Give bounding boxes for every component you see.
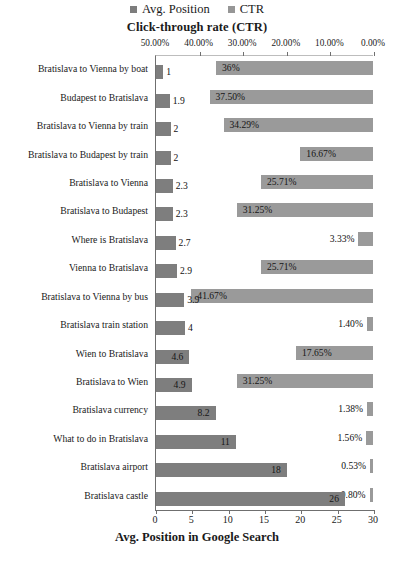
top-tick-mark [287, 52, 288, 56]
category-label: Bratislava currency [0, 405, 152, 415]
bottom-tick-label: 15 [259, 514, 269, 525]
top-tick-mark [374, 52, 375, 56]
bar-value-label-avg-position: 1 [166, 67, 171, 77]
bar-avg-position [156, 65, 163, 79]
legend-item-ctr: CTR [228, 2, 264, 17]
bar-row-avg-position: 4.9 [156, 378, 373, 392]
bar-row-avg-position: 2.9 [156, 264, 373, 278]
category-label: Bratislava to Vienna by boat [0, 64, 152, 74]
bar-avg-position [156, 151, 171, 165]
legend-label-ctr: CTR [240, 2, 264, 17]
bar-avg-position [156, 492, 345, 506]
category-label: Budapest to Bratislava [0, 93, 152, 103]
square-marker-icon [130, 6, 137, 13]
bar-avg-position [156, 236, 176, 250]
bar-row-avg-position: 2 [156, 151, 373, 165]
category-label: Bratislava to Budapest by train [0, 150, 152, 160]
bar-avg-position [156, 321, 185, 335]
category-axis-labels: Bratislava to Vienna by boatBudapest to … [0, 55, 152, 510]
bar-value-label-avg-position: 4 [188, 323, 193, 333]
plot-area: 36%137.50%1.934.29%216.67%225.71%2.331.2… [155, 55, 373, 510]
category-label: What to do in Bratislava [0, 434, 152, 444]
bar-value-label-avg-position: 18 [271, 466, 281, 476]
top-tick-mark [330, 52, 331, 56]
bar-avg-position [156, 94, 170, 108]
bottom-tick-label: 20 [295, 514, 305, 525]
bottom-axis-title: Avg. Position in Google Search [0, 530, 394, 545]
bar-row-avg-position: 2.3 [156, 179, 373, 193]
top-tick-label: 10.00% [315, 38, 344, 48]
bar-row-avg-position: 18 [156, 463, 373, 477]
bar-row-avg-position: 4.6 [156, 350, 373, 364]
top-tick-mark [243, 52, 244, 56]
legend-label-avg-position: Avg. Position [142, 2, 210, 17]
category-label: Bratislava to Vienna by train [0, 121, 152, 131]
bar-row-avg-position: 11 [156, 435, 373, 449]
category-label: Bratislava castle [0, 491, 152, 501]
bottom-tick-label: 25 [332, 514, 342, 525]
bar-avg-position [156, 179, 173, 193]
category-label: Where is Bratislava [0, 235, 152, 245]
bar-value-label-avg-position: 8.2 [198, 409, 210, 419]
category-label: Vienna to Bratislava [0, 263, 152, 273]
bar-value-label-avg-position: 2.3 [176, 181, 188, 191]
legend-item-avg-position: Avg. Position [130, 2, 210, 17]
bar-value-label-avg-position: 2.3 [176, 210, 188, 220]
page-edge-artifact [6, 556, 176, 562]
bar-value-label-avg-position: 2.9 [180, 266, 192, 276]
top-axis-tick-labels: 50.00%40.00%30.00%20.00%10.00%0.00% [155, 38, 373, 51]
top-tick-label: 50.00% [141, 38, 170, 48]
top-tick-mark [200, 52, 201, 56]
bar-row-avg-position: 4 [156, 321, 373, 335]
bar-row-avg-position: 2 [156, 122, 373, 136]
bar-value-label-avg-position: 1.9 [173, 96, 185, 106]
bar-row-avg-position: 1.9 [156, 94, 373, 108]
top-tick-label: 20.00% [271, 38, 300, 48]
bar-row-avg-position: 2.7 [156, 236, 373, 250]
bottom-tick-label: 5 [189, 514, 194, 525]
bottom-tick-label: 30 [368, 514, 378, 525]
chart-legend: Avg. Position CTR [0, 2, 394, 17]
bottom-axis-tick-labels: 051015202530 [155, 514, 373, 527]
bar-row-avg-position: 2.3 [156, 207, 373, 221]
bar-value-label-avg-position: 2.7 [179, 238, 191, 248]
bar-value-label-avg-position: 26 [329, 494, 339, 504]
bar-value-label-avg-position: 2 [174, 124, 179, 134]
bar-value-label-avg-position: 2 [174, 153, 179, 163]
bottom-tick-label: 10 [223, 514, 233, 525]
category-label: Bratislava train station [0, 320, 152, 330]
bar-row-avg-position: 26 [156, 492, 373, 506]
category-label: Bratislava airport [0, 462, 152, 472]
bar-value-label-avg-position: 4.6 [171, 352, 183, 362]
bottom-axis-line [155, 510, 374, 511]
bar-row-avg-position: 1 [156, 65, 373, 79]
bar-row-avg-position: 3.9 [156, 293, 373, 307]
category-label: Wien to Bratislava [0, 349, 152, 359]
category-label: Bratislava to Wien [0, 377, 152, 387]
top-tick-label: 40.00% [184, 38, 213, 48]
category-label: Bratislava to Budapest [0, 206, 152, 216]
top-tick-label: 30.00% [228, 38, 257, 48]
bar-value-label-avg-position: 4.9 [174, 380, 186, 390]
category-label: Bratislava to Vienna by bus [0, 292, 152, 302]
bottom-tick-label: 0 [153, 514, 158, 525]
bar-row-avg-position: 8.2 [156, 406, 373, 420]
bar-avg-position [156, 264, 177, 278]
bar-avg-position [156, 122, 171, 136]
bar-avg-position [156, 207, 173, 221]
bar-avg-position [156, 293, 184, 307]
top-tick-label: 0.00% [361, 38, 385, 48]
square-marker-icon [228, 6, 235, 13]
bar-value-label-avg-position: 3.9 [187, 295, 199, 305]
top-axis-title: Click-through rate (CTR) [0, 20, 394, 35]
category-label: Bratislava to Vienna [0, 178, 152, 188]
bar-avg-position [156, 463, 287, 477]
bar-value-label-avg-position: 11 [221, 437, 230, 447]
bidirectional-bar-chart: Avg. Position CTR Click-through rate (CT… [0, 0, 394, 564]
